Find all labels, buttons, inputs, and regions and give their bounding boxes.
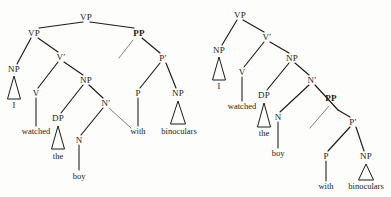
node-label-L-P: P	[135, 89, 140, 98]
node-label-L-PP: PP	[133, 29, 144, 38]
node-label-L-NP-pobj: NP	[172, 89, 184, 98]
leaf-label-L-leaf-the: the	[53, 152, 63, 161]
leaf-label-R-leaf-boy: boy	[272, 149, 285, 158]
branch-R-NP-obj-to-R-DP	[267, 63, 289, 90]
node-label-R-N: N	[275, 113, 282, 122]
movement-line-pp-trace	[119, 40, 133, 58]
branch-L-NP-obj-to-L-Nbar	[89, 85, 103, 98]
branch-L-VP-top-to-L-VP-low	[39, 22, 83, 28]
movement-line-pp-trace	[310, 106, 329, 128]
node-label-R-NP-subj: NP	[213, 46, 225, 55]
node-label-L-Pbar: P′	[159, 54, 166, 63]
leaf-label-L-leaf-I: I	[13, 101, 16, 110]
leaf-label-R-leaf-I: I	[218, 82, 221, 91]
branch-R-Pbar-to-R-P	[328, 127, 350, 151]
node-label-L-VP-low: VP	[28, 29, 40, 38]
triangle-L-NP-pobj	[171, 101, 186, 124]
leaf-label-R-leaf-the: the	[259, 129, 269, 138]
branch-L-VP-low-to-L-Vbar	[38, 38, 58, 52]
node-label-R-DP: DP	[258, 91, 270, 100]
leaf-label-R-leaf-wat: watched	[228, 102, 256, 111]
node-label-L-V: V	[33, 89, 40, 98]
branch-R-Nbar-to-R-N	[280, 85, 309, 112]
node-label-R-PP: PP	[325, 94, 336, 103]
triangle-R-NP-pobj	[359, 164, 374, 180]
node-label-L-DP: DP	[52, 114, 64, 123]
branch-L-PP-to-L-Pbar	[142, 38, 160, 53]
branch-L-Vbar-to-L-NP-obj	[64, 62, 83, 75]
branch-L-Nbar-to-L-N	[81, 108, 103, 135]
branch-R-VP-to-R-NP-subj	[222, 20, 237, 45]
branch-L-Pbar-to-L-P	[140, 63, 160, 88]
branch-L-VP-low-to-L-NP-subj	[17, 38, 31, 64]
branch-R-VP-to-R-Vbar	[243, 20, 264, 32]
node-label-R-V: V	[239, 68, 246, 77]
node-label-L-N: N	[76, 136, 83, 145]
node-label-R-NP-obj: NP	[286, 54, 298, 63]
branch-L-NP-obj-to-L-DP	[61, 85, 83, 113]
branch-L-Vbar-to-L-V	[38, 62, 58, 88]
node-label-R-Vbar: V′	[263, 33, 272, 42]
triangle-R-DP	[258, 103, 271, 127]
triangle-L-NP-subj	[8, 76, 21, 99]
node-label-L-NP-obj: NP	[80, 76, 92, 85]
movement-line-nbar-trace	[109, 108, 131, 128]
node-label-R-Nbar: N′	[308, 76, 317, 85]
leaf-label-L-leaf-boy: boy	[73, 172, 86, 181]
node-label-L-VP-top: VP	[80, 13, 92, 22]
branch-R-Vbar-to-R-NP-obj	[270, 42, 289, 53]
branch-R-Pbar-to-R-NP-pobj	[356, 127, 364, 151]
branch-L-Pbar-to-L-NP-pobj	[166, 63, 176, 88]
branch-L-VP-top-to-L-PP	[90, 22, 134, 28]
syntax-tree-figure: VPVPPPNPV′VNPDPN′NP′PNPIwatchedtheboywit…	[0, 0, 391, 197]
node-label-R-P: P	[323, 152, 328, 161]
branch-R-Vbar-to-R-V	[244, 42, 264, 67]
leaf-label-R-leaf-with: with	[318, 182, 333, 191]
node-label-R-Pbar: P′	[349, 118, 356, 127]
leaf-label-L-leaf-with: with	[130, 127, 145, 136]
node-label-L-Vbar: V′	[57, 53, 66, 62]
node-label-L-Nbar: N′	[102, 99, 111, 108]
node-label-L-NP-subj: NP	[8, 65, 20, 74]
leaf-label-L-leaf-bino: binoculars	[161, 127, 196, 136]
leaf-label-L-leaf-wat: watched	[22, 127, 50, 136]
branch-R-PP-to-R-Pbar	[338, 110, 350, 117]
node-label-R-NP-pobj: NP	[360, 152, 372, 161]
node-label-R-VP: VP	[234, 11, 246, 20]
triangle-L-DP	[52, 126, 65, 149]
branch-R-NP-obj-to-R-Nbar	[295, 63, 309, 75]
leaf-label-R-leaf-bino: binoculars	[348, 182, 383, 191]
triangle-R-NP-subj	[213, 57, 226, 80]
